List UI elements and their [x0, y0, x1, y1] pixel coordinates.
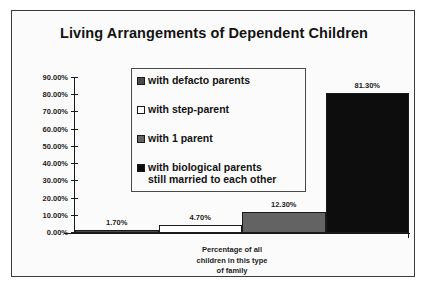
y-axis-tick: 70.00%: [12, 106, 82, 118]
y-axis-tick: 0.00%: [12, 227, 82, 239]
bar: [326, 93, 410, 233]
bar-value-label: 1.70%: [75, 218, 159, 227]
y-axis-tick-label: 10.00%: [43, 210, 68, 222]
legend-item: with 1 parent: [137, 133, 305, 162]
y-axis-tick-label: 80.00%: [43, 89, 68, 101]
y-axis-tick: 80.00%: [12, 89, 82, 101]
legend-label: with biological parents still married to…: [148, 162, 276, 185]
y-axis-tick-label: 90.00%: [43, 72, 68, 84]
y-axis-tick: 60.00%: [12, 124, 82, 136]
y-axis-tick-label: 70.00%: [43, 106, 68, 118]
legend-swatch: [137, 106, 145, 114]
y-axis-tick: 90.00%: [12, 72, 82, 84]
y-axis-tick-label: 60.00%: [43, 124, 68, 136]
x-axis-label: Percentage of all children in this type …: [172, 245, 292, 277]
y-axis-tick: 30.00%: [12, 175, 82, 187]
bar-value-label: 4.70%: [159, 213, 243, 222]
bar-value-label: 12.30%: [242, 200, 326, 209]
chart-frame: Living Arrangements of Dependent Childre…: [11, 10, 415, 277]
x-axis-line: [64, 233, 410, 234]
legend-item: with step-parent: [137, 104, 305, 133]
legend-label: with step-parent: [148, 104, 229, 116]
y-axis-tick-label: 50.00%: [43, 141, 68, 153]
bar: [75, 230, 159, 233]
legend-label: with defacto parents: [148, 75, 250, 87]
chart-title: Living Arrangements of Dependent Childre…: [12, 25, 416, 41]
y-axis-tick-label: 40.00%: [43, 158, 68, 170]
y-axis-tick: 50.00%: [12, 141, 82, 153]
legend-swatch: [137, 135, 145, 143]
y-axis-tick: 40.00%: [12, 158, 82, 170]
bar: [242, 212, 326, 233]
y-axis-tick-label: 0.00%: [47, 227, 68, 239]
legend-label: with 1 parent: [148, 133, 213, 145]
legend-item: with defacto parents: [137, 75, 305, 104]
bar: [159, 225, 243, 233]
legend-item: with biological parents still married to…: [137, 162, 305, 191]
legend-swatch: [137, 77, 145, 85]
y-axis-tick: 10.00%: [12, 210, 82, 222]
chart-legend: with defacto parentswith step-parentwith…: [131, 68, 306, 192]
y-axis-tick-label: 20.00%: [43, 193, 68, 205]
bar-value-label: 81.30%: [326, 81, 410, 90]
legend-swatch: [137, 164, 145, 172]
y-axis-tick: 20.00%: [12, 193, 82, 205]
y-axis-tick-label: 30.00%: [43, 175, 68, 187]
